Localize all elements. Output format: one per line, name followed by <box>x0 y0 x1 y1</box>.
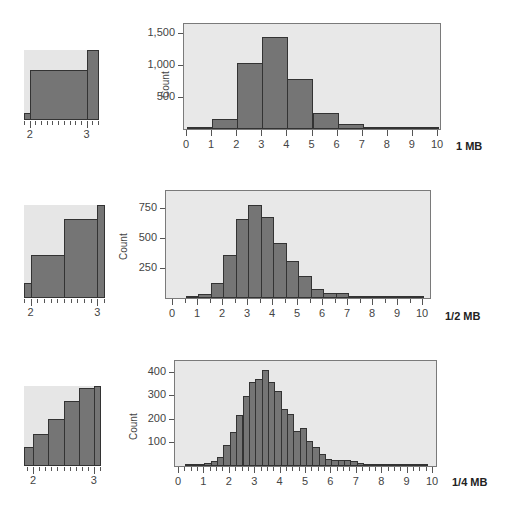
x-tick-label: 6 <box>334 138 340 150</box>
x-minor-tick <box>178 467 179 471</box>
x-minor-tick <box>322 299 323 303</box>
y-tick-label: 250 <box>117 261 157 273</box>
inset-tick <box>30 121 31 128</box>
y-tick <box>169 372 174 373</box>
x-minor-tick <box>191 467 192 471</box>
x-minor-tick <box>222 467 223 471</box>
x-minor-tick <box>299 467 300 471</box>
y-tick <box>169 395 174 396</box>
x-tick-label: 1 <box>208 138 214 150</box>
inset-tick <box>84 299 85 303</box>
x-tick <box>261 130 262 136</box>
y-tick <box>178 65 183 66</box>
inset-tick <box>71 299 72 303</box>
inset-tick <box>24 121 25 125</box>
inset-tick <box>37 299 38 303</box>
x-tick-label: 1 <box>200 475 206 487</box>
x-tick <box>286 130 287 136</box>
x-minor-tick <box>311 467 312 471</box>
x-minor-tick <box>297 299 298 303</box>
x-minor-tick <box>426 467 427 471</box>
x-minor-tick <box>413 467 414 471</box>
inset-tick <box>52 121 53 125</box>
x-tick-label: 4 <box>277 475 283 487</box>
x-minor-tick <box>248 467 249 471</box>
x-minor-tick <box>432 467 433 471</box>
inset-tick <box>57 299 58 303</box>
inset-tick <box>70 467 71 471</box>
inset-tick <box>104 299 105 303</box>
x-minor-tick <box>286 467 287 471</box>
inset-tick <box>41 121 42 125</box>
inset-bar <box>33 434 49 466</box>
inset-tick <box>88 467 89 471</box>
x-tick-label: 8 <box>369 307 375 319</box>
x-minor-tick <box>356 467 357 471</box>
x-minor-tick <box>272 299 273 303</box>
x-minor-tick <box>210 467 211 471</box>
x-minor-tick <box>410 299 411 303</box>
panel-label: 1/4 MB <box>452 476 487 488</box>
x-minor-tick <box>397 299 398 303</box>
inset-tick <box>91 299 92 303</box>
x-tick-label: 2 <box>233 138 239 150</box>
inset-tick <box>45 467 46 471</box>
x-minor-tick <box>203 467 204 471</box>
inset-tick <box>24 299 25 303</box>
inset-tick <box>92 121 93 125</box>
x-tick-label: 4 <box>269 307 275 319</box>
y-tick-label: 1,000 <box>135 58 175 70</box>
panel-quarter-mb: Count 1/4 MB <box>0 0 514 512</box>
x-tick <box>211 130 212 136</box>
x-minor-tick <box>400 467 401 471</box>
inset-tick <box>87 121 88 128</box>
inset-bar <box>48 419 64 466</box>
x-minor-tick <box>235 299 236 303</box>
x-minor-tick <box>305 467 306 471</box>
x-minor-tick <box>318 467 319 471</box>
x-tick-label: 6 <box>319 307 325 319</box>
inset-tick <box>27 467 28 471</box>
x-minor-tick <box>210 299 211 303</box>
x-tick-label: 7 <box>359 138 365 150</box>
y-tick <box>169 419 174 420</box>
x-tick-label: 10 <box>426 475 438 487</box>
y-tick <box>169 442 174 443</box>
x-minor-tick <box>285 299 286 303</box>
inset-tick-label: 2 <box>27 128 33 140</box>
x-tick <box>186 130 187 136</box>
inset-tick-label: 3 <box>94 306 100 318</box>
x-tick-label: 0 <box>183 138 189 150</box>
x-tick <box>387 130 388 136</box>
x-minor-tick <box>185 299 186 303</box>
x-minor-tick <box>260 299 261 303</box>
x-tick-label: 9 <box>404 475 410 487</box>
x-minor-tick <box>280 467 281 471</box>
y-tick-label: 300 <box>126 388 166 400</box>
x-minor-tick <box>242 467 243 471</box>
inset-tick <box>57 467 58 471</box>
x-minor-tick <box>261 467 262 471</box>
x-minor-tick <box>394 467 395 471</box>
inset-tick <box>47 121 48 125</box>
x-tick-label: 7 <box>353 475 359 487</box>
x-minor-tick <box>172 299 173 303</box>
inset-bar <box>79 388 95 466</box>
x-tick <box>437 130 438 136</box>
inset-tick <box>39 467 40 471</box>
x-tick-label: 10 <box>416 307 428 319</box>
x-tick-label: 10 <box>431 138 443 150</box>
inset-tick <box>51 299 52 303</box>
inset-tick <box>82 467 83 471</box>
y-tick-label: 400 <box>126 365 166 377</box>
y-tick <box>178 33 183 34</box>
x-minor-tick <box>184 467 185 471</box>
x-tick-label: 3 <box>258 138 264 150</box>
inset-tick <box>64 299 65 303</box>
inset-tick <box>75 121 76 125</box>
y-tick-label: 1,500 <box>135 26 175 38</box>
x-minor-tick <box>292 467 293 471</box>
inset-tick <box>94 467 95 474</box>
x-tick <box>412 130 413 136</box>
inset-tick <box>33 467 34 474</box>
